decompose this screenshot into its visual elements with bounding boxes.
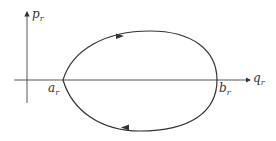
- point-a-label: ar: [48, 82, 59, 97]
- p-axis-label: pr: [32, 8, 44, 23]
- point-b-label: br: [219, 82, 231, 97]
- q-axis-label: qr: [253, 72, 265, 87]
- orbit-curve: [63, 31, 217, 131]
